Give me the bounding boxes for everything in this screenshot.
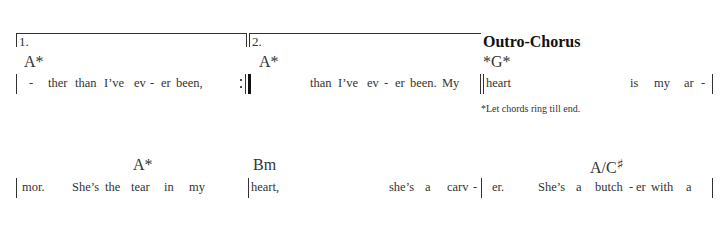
lyric-syllable: the xyxy=(105,180,120,195)
lyric-syllable: She’s xyxy=(538,180,565,195)
lyric-syllable: I’ve xyxy=(338,76,358,91)
lyric-syllable: - xyxy=(29,76,33,91)
double-barline-right xyxy=(483,74,484,94)
lyric-syllable: er. xyxy=(492,180,504,195)
repeat-end-thick-barline xyxy=(248,74,251,94)
barline xyxy=(16,178,17,198)
chord-symbol: A* xyxy=(259,53,279,71)
volta-2-bracket-left xyxy=(249,33,250,47)
lyric-syllable: ther xyxy=(48,76,67,91)
barline xyxy=(481,178,482,198)
lyric-syllable: er xyxy=(395,76,405,91)
chord-root: A/C xyxy=(590,159,617,176)
chord-symbol: Bm xyxy=(253,156,276,174)
lyric-syllable: ev xyxy=(134,76,146,91)
lyric-syllable: I’ve xyxy=(104,76,124,91)
lyric-syllable: in xyxy=(164,180,174,195)
lyric-syllable: heart, xyxy=(251,180,279,195)
lyric-syllable: - xyxy=(384,76,388,91)
volta-1-bracket-top xyxy=(16,33,246,34)
lyric-syllable: She’s xyxy=(72,180,99,195)
lyric-syllable: heart xyxy=(486,76,511,91)
barline xyxy=(248,178,249,198)
lyric-syllable: My xyxy=(442,76,459,91)
repeat-dot-lower xyxy=(240,86,242,88)
lyric-syllable: mor. xyxy=(22,180,45,195)
volta-2-label: 2. xyxy=(252,34,262,50)
lyric-syllable: er xyxy=(161,76,171,91)
lyric-syllable: tear xyxy=(131,180,150,195)
lyric-syllable: a xyxy=(576,180,582,195)
lyric-syllable: than xyxy=(310,76,332,91)
barline xyxy=(16,74,17,94)
repeat-dot-upper xyxy=(240,79,242,81)
lyric-syllable: my xyxy=(654,76,670,91)
sharp-icon: ♯ xyxy=(617,156,624,172)
chord-symbol: *G* xyxy=(483,53,511,71)
lyric-syllable: carv xyxy=(447,180,469,195)
lyric-syllable: - xyxy=(473,180,477,195)
lyric-syllable: - xyxy=(150,76,154,91)
lyric-syllable: - xyxy=(701,76,705,91)
chord-symbol: A* xyxy=(24,53,44,71)
lyric-syllable: been, xyxy=(176,76,203,91)
lyric-syllable: she’s xyxy=(389,180,414,195)
volta-1-bracket-left xyxy=(16,33,17,47)
lyric-syllable: than xyxy=(75,76,97,91)
lyric-syllable: ev xyxy=(367,76,379,91)
barline xyxy=(712,74,713,94)
repeat-end-thin-barline xyxy=(245,74,246,94)
barline xyxy=(712,178,713,198)
lyric-syllable: been. xyxy=(410,76,437,91)
lyric-syllable: with xyxy=(651,180,673,195)
lyric-syllable: a xyxy=(425,180,431,195)
lyric-syllable: - xyxy=(629,180,633,195)
lyric-syllable: ar xyxy=(684,76,694,91)
section-title: Outro-Chorus xyxy=(483,33,581,51)
lyric-syllable: my xyxy=(189,180,205,195)
volta-1-label: 1. xyxy=(19,34,29,50)
lyric-syllable: butch xyxy=(595,180,623,195)
lyric-syllable: er xyxy=(636,180,646,195)
chord-symbol: A* xyxy=(133,156,153,174)
lyric-syllable: is xyxy=(630,76,638,91)
chord-symbol: A/C♯ xyxy=(590,156,623,177)
double-barline-left xyxy=(480,74,481,94)
footnote: *Let chords ring till end. xyxy=(481,103,580,114)
lyric-syllable: a xyxy=(686,180,692,195)
volta-1-bracket-right xyxy=(246,33,247,47)
volta-2-bracket-top xyxy=(249,33,481,34)
